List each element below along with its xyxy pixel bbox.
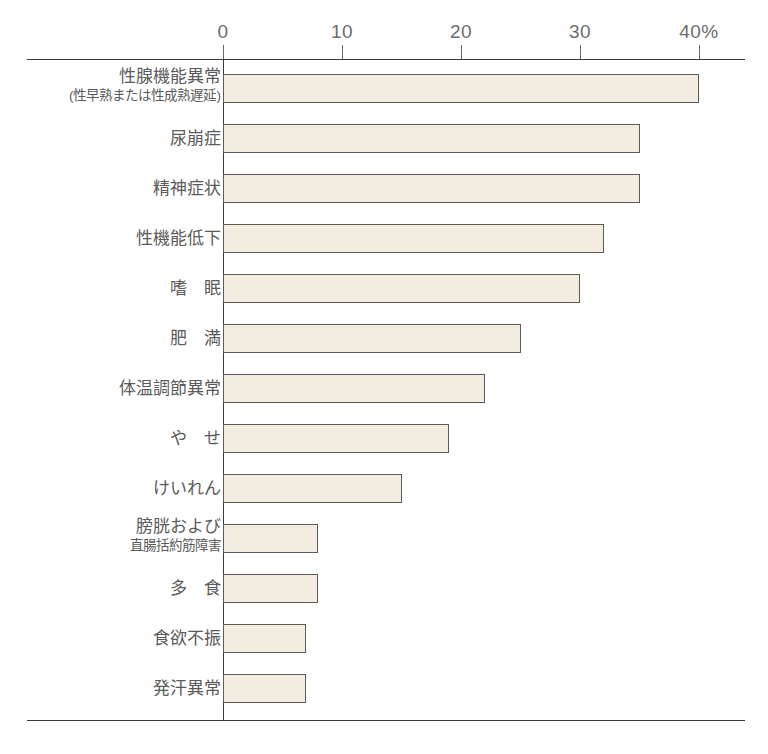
- bar: [223, 74, 699, 103]
- x-tick-mark: [461, 45, 462, 59]
- x-tick-mark: [223, 45, 224, 59]
- bar: [223, 374, 485, 403]
- chart-row: 嗜 眠: [0, 259, 768, 309]
- bar-category-label: や せ: [21, 429, 221, 449]
- bar-category-label: 性機能低下: [21, 229, 221, 249]
- bar-category-label: 体温調節異常: [21, 379, 221, 399]
- bar: [223, 174, 640, 203]
- bar-category-label-primary: けいれん: [153, 479, 221, 498]
- bar-category-label: 嗜 眠: [21, 279, 221, 299]
- bar-category-label-primary: 膀胱および: [136, 517, 221, 536]
- bar-category-label-primary: 体温調節異常: [119, 379, 221, 398]
- bar: [223, 324, 521, 353]
- chart-row: 性機能低下: [0, 209, 768, 259]
- x-tick-label: 20: [450, 22, 472, 41]
- x-tick-label: 40%: [679, 22, 719, 41]
- bar-category-label-primary: 嗜 眠: [170, 279, 221, 298]
- x-tick-mark: [342, 45, 343, 59]
- chart-row: 発汗異常: [0, 659, 768, 709]
- bar-category-label: 多 食: [21, 579, 221, 599]
- bar-category-label-primary: 性機能低下: [136, 229, 221, 248]
- bar: [223, 624, 306, 653]
- bar: [223, 474, 402, 503]
- x-tick-label: 30: [569, 22, 591, 41]
- bar: [223, 124, 640, 153]
- bar-category-label-primary: 食欲不振: [153, 629, 221, 648]
- chart-row: 性腺機能異常(性早熟または性成熟遅延): [0, 59, 768, 109]
- bar-category-label-secondary: (性早熟または性成熟遅延): [21, 87, 221, 104]
- chart-row: 精神症状: [0, 159, 768, 209]
- x-tick-mark: [699, 45, 700, 59]
- bottom-axis-line: [27, 720, 745, 721]
- bar-category-label-primary: 性腺機能異常: [119, 67, 221, 86]
- bar-category-label: 尿崩症: [21, 129, 221, 149]
- chart-row: 肥 満: [0, 309, 768, 359]
- bar: [223, 674, 306, 703]
- bar-category-label: 膀胱および直腸括約筋障害: [21, 517, 221, 554]
- bar-category-label-primary: 肥 満: [170, 329, 221, 348]
- x-tick-label: 0: [217, 22, 228, 41]
- bar-category-label-primary: 多 食: [170, 579, 221, 598]
- bar-category-label-primary: 精神症状: [153, 179, 221, 198]
- chart-row: けいれん: [0, 459, 768, 509]
- bar-category-label: 発汗異常: [21, 679, 221, 699]
- bar: [223, 574, 318, 603]
- chart-row: 食欲不振: [0, 609, 768, 659]
- bar-category-label: 精神症状: [21, 179, 221, 199]
- bar: [223, 274, 580, 303]
- plot-area: 性腺機能異常(性早熟または性成熟遅延)尿崩症精神症状性機能低下嗜 眠肥 満体温調…: [0, 59, 768, 720]
- bar-category-label: 食欲不振: [21, 629, 221, 649]
- bar-category-label: 性腺機能異常(性早熟または性成熟遅延): [21, 67, 221, 104]
- x-tick-label: 10: [331, 22, 353, 41]
- chart-row: や せ: [0, 409, 768, 459]
- bar: [223, 524, 318, 553]
- bar-category-label-secondary: 直腸括約筋障害: [21, 537, 221, 554]
- bar: [223, 424, 449, 453]
- chart-row: 体温調節異常: [0, 359, 768, 409]
- bar-category-label: けいれん: [21, 479, 221, 499]
- bar-category-label-primary: 発汗異常: [153, 679, 221, 698]
- horizontal-bar-chart: 010203040% 性腺機能異常(性早熟または性成熟遅延)尿崩症精神症状性機能…: [0, 0, 768, 754]
- chart-row: 尿崩症: [0, 109, 768, 159]
- bar-category-label-primary: 尿崩症: [170, 129, 221, 148]
- bar: [223, 224, 604, 253]
- bar-category-label-primary: や せ: [170, 429, 221, 448]
- chart-row: 膀胱および直腸括約筋障害: [0, 509, 768, 559]
- x-tick-mark: [580, 45, 581, 59]
- chart-row: 多 食: [0, 559, 768, 609]
- bar-category-label: 肥 満: [21, 329, 221, 349]
